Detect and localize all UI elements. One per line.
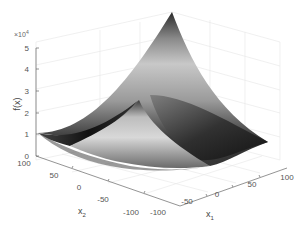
z-tick: 1 bbox=[25, 130, 30, 139]
z-tick: 5 bbox=[25, 44, 30, 53]
x2-tick: 50 bbox=[50, 171, 59, 180]
x1-axis-line bbox=[180, 168, 287, 206]
z-tick: 4 bbox=[25, 65, 30, 74]
x1-tick: -100 bbox=[150, 208, 167, 217]
z-tick-labels: 5 4 3 2 1 0 bbox=[25, 44, 30, 161]
z-exponent-label: ×104 bbox=[14, 29, 29, 38]
z-axis-label: f(x) bbox=[12, 98, 22, 111]
surface bbox=[38, 12, 268, 171]
x1-tick: 100 bbox=[280, 173, 294, 182]
x2-tick: 0 bbox=[77, 183, 82, 192]
x2-tick: -50 bbox=[97, 195, 109, 204]
x1-axis-label: x1 bbox=[206, 209, 215, 221]
z-tick: 2 bbox=[25, 109, 30, 118]
x2-tick: 100 bbox=[17, 159, 31, 168]
x2-tick: -100 bbox=[123, 208, 140, 217]
surface-plot-figure: ×104 5 4 3 2 1 0 f(x) 100 50 0 -50 -100 … bbox=[0, 0, 305, 232]
x1-tick: 0 bbox=[215, 190, 220, 199]
x2-axis-label: x2 bbox=[78, 206, 87, 218]
x1-tick: 50 bbox=[248, 180, 257, 189]
z-tick: 3 bbox=[25, 87, 30, 96]
x1-tick: -50 bbox=[181, 197, 193, 206]
